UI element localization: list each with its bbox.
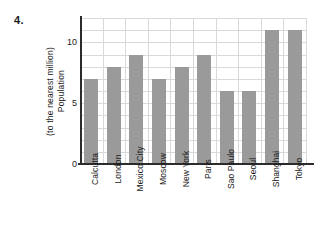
plot-area xyxy=(80,18,306,164)
x-label-slot: Mexico City xyxy=(125,167,148,235)
bar-calcutta xyxy=(84,79,98,164)
bar-slot xyxy=(125,18,148,164)
x-label-slot: London xyxy=(103,167,126,235)
x-axis-tick-label: New York xyxy=(182,151,191,188)
x-label-slot: Calcutta xyxy=(80,167,103,235)
x-label-slot: Moscow xyxy=(148,167,171,235)
bar-slot xyxy=(80,18,103,164)
y-axis-tick-label: 5 xyxy=(72,99,77,108)
bar-slot xyxy=(148,18,171,164)
x-axis-tick-label: Calcutta xyxy=(91,153,100,185)
bar-slot xyxy=(193,18,216,164)
x-axis-tick-label: Tokyo xyxy=(295,158,304,181)
y-axis-line xyxy=(80,16,82,165)
x-axis-tick-label: London xyxy=(114,155,123,184)
x-label-slot: Seoul xyxy=(238,167,261,235)
x-label-slot: New York xyxy=(170,167,193,235)
bar-shanghai xyxy=(265,30,279,164)
y-axis-tick-label: 0 xyxy=(72,160,77,169)
x-label-slot: Paris xyxy=(193,167,216,235)
y-axis-tick-label: 10 xyxy=(67,38,77,47)
x-axis-tick-label: Mexico City xyxy=(136,146,145,191)
bar-seoul xyxy=(242,91,256,164)
x-axis-tick-label: Paris xyxy=(204,159,213,179)
x-axis-tick-labels: CalcuttaLondonMexico CityMoscowNew YorkP… xyxy=(80,167,306,235)
x-axis-tick-label: Shanghai xyxy=(272,151,281,188)
bar-chart-figure: 4. (to the nearest million) Population 0… xyxy=(0,0,334,237)
bar-series xyxy=(80,18,306,164)
y-axis-title-line-2: (to the nearest million) xyxy=(45,47,56,136)
x-axis-tick-label: Moscow xyxy=(159,153,168,185)
bar-slot xyxy=(283,18,306,164)
x-label-slot: Shanghai xyxy=(261,167,284,235)
x-label-slot: Sao Paulo xyxy=(216,167,239,235)
question-number: 4. xyxy=(14,14,24,26)
bar-slot xyxy=(238,18,261,164)
bar-paris xyxy=(197,55,211,165)
gridline-vertical xyxy=(306,18,307,164)
bar-slot xyxy=(103,18,126,164)
bar-moscow xyxy=(152,79,166,164)
bar-slot xyxy=(261,18,284,164)
y-axis-tick-labels: 0510 xyxy=(64,18,78,164)
x-label-slot: Tokyo xyxy=(283,167,306,235)
bar-tokyo xyxy=(288,30,302,164)
x-axis-tick-label: Sao Paulo xyxy=(227,149,236,189)
x-axis-tick-label: Seoul xyxy=(249,158,258,180)
bar-london xyxy=(107,67,121,164)
bar-slot xyxy=(216,18,239,164)
bar-slot xyxy=(170,18,193,164)
